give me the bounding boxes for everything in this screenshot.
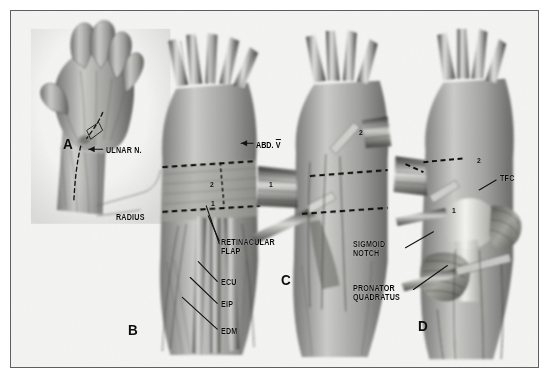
- panel-letter-c: C: [281, 272, 291, 287]
- flap-marker-2-panel-b: 2: [210, 181, 214, 189]
- label-tfc: TFC: [500, 174, 515, 183]
- flap-marker-1-panel-b: 1: [211, 200, 215, 208]
- label-eip: EIP: [221, 300, 233, 309]
- label-sigmoid-notch: SIGMOID NOTCH: [353, 240, 385, 259]
- flap-marker-1-panel-c: 1: [269, 181, 273, 189]
- panel-letter-b: B: [128, 322, 138, 337]
- label-ulnar-nerve: ULNAR N.: [106, 146, 142, 155]
- flap-marker-1-panel-d: 1: [452, 207, 456, 215]
- flap-marker-2-panel-d: 2: [477, 157, 481, 165]
- label-edm: EDM: [221, 327, 238, 336]
- label-retinacular-flap: RETINACULAR FLAP: [221, 238, 275, 257]
- label-pronator-quadratus: PRONATOR QUADRATUS: [353, 284, 400, 303]
- flap-marker-2-panel-c: 2: [359, 129, 363, 137]
- label-abductor-digiti-v: ABD. V: [256, 140, 285, 150]
- panel-letter-d: D: [418, 318, 428, 333]
- label-ecu: ECU: [221, 278, 237, 287]
- label-radius: RADIUS: [116, 213, 145, 222]
- anatomical-artwork: [11, 11, 538, 367]
- illustration-plate: ULNAR N. RADIUS ABD. V RETINACULAR FLAP …: [10, 10, 539, 368]
- panel-letter-a: A: [63, 136, 73, 151]
